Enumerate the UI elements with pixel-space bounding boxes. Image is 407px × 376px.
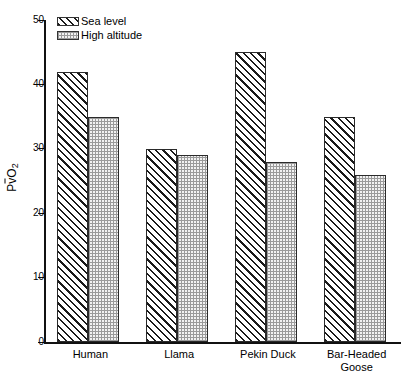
- y-tick-label: 50: [20, 15, 44, 25]
- bar-sea-level: [235, 52, 266, 342]
- category-label-line: Bar-Headed: [302, 348, 407, 361]
- y-tick-50: 50: [0, 20, 44, 21]
- y-tick-label: 0: [20, 337, 44, 347]
- x-axis-line: [44, 342, 401, 344]
- y-tick-20: 20: [0, 213, 44, 214]
- bar-sea-level: [57, 72, 88, 342]
- y-tick-label: 30: [20, 143, 44, 153]
- bar-group: [324, 20, 386, 342]
- subscript-2: 2: [10, 163, 20, 168]
- y-tick-0: 0: [0, 342, 44, 343]
- y-tick-label: 20: [20, 208, 44, 218]
- bar-chart: PvO2 01020304050 Sea level High altitude…: [0, 0, 407, 376]
- category-label-line: Goose: [302, 361, 407, 374]
- bar-group: [235, 20, 297, 342]
- bar-high-altitude: [177, 155, 208, 342]
- y-tick-label: 40: [20, 79, 44, 89]
- bar-sea-level: [146, 149, 177, 342]
- bar-high-altitude: [355, 175, 386, 342]
- y-tick-10: 10: [0, 277, 44, 278]
- y-tick-label: 10: [20, 272, 44, 282]
- bar-sea-level: [324, 117, 355, 342]
- y-tick-30: 30: [0, 148, 44, 149]
- y-tick-40: 40: [0, 84, 44, 85]
- v-overbar: v: [6, 178, 18, 184]
- category-label: Bar-HeadedGoose: [302, 348, 407, 373]
- bar-group: [146, 20, 208, 342]
- bar-group: [57, 20, 119, 342]
- bar-high-altitude: [266, 162, 297, 342]
- y-axis-title: PvO2: [6, 148, 21, 208]
- plot-area: [46, 20, 401, 342]
- bar-high-altitude: [88, 117, 119, 342]
